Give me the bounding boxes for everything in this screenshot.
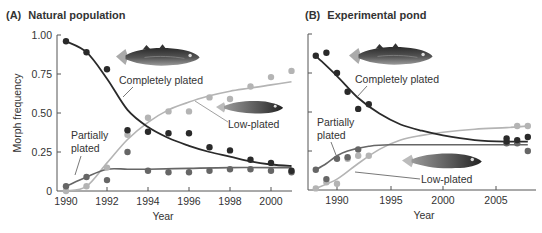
annotation-low-plated: Low-plated bbox=[421, 173, 473, 185]
annotation-completely-plated: Completely plated bbox=[355, 73, 439, 85]
figure: (A) Natural population 1.00 0.75 0.50 0.… bbox=[0, 0, 542, 233]
annotation-partially-plated-line1: Partially bbox=[71, 129, 109, 141]
data-point-partially bbox=[525, 148, 531, 154]
data-point-low bbox=[247, 83, 253, 89]
xtick-label: 2000 bbox=[259, 195, 283, 207]
ytick-label: 0.25 bbox=[32, 146, 53, 158]
data-point-completely bbox=[503, 135, 509, 141]
data-point-completely bbox=[323, 50, 329, 56]
data-point-completely bbox=[104, 66, 110, 72]
annotation-low-plated: Low-plated bbox=[228, 118, 280, 130]
xtick-label: 1994 bbox=[136, 195, 160, 207]
panel-a-yticks: 1.00 0.75 0.50 0.25 0 bbox=[32, 29, 53, 197]
leader-line bbox=[357, 86, 367, 97]
data-point-completely bbox=[124, 127, 130, 133]
ytick-label: 1.00 bbox=[32, 29, 53, 41]
xtick-label: 1992 bbox=[95, 195, 119, 207]
annotation-partially-plated-line2: plated bbox=[317, 129, 346, 141]
data-point-partially bbox=[104, 177, 110, 183]
ytick-label: 0.75 bbox=[32, 68, 53, 80]
leader-line bbox=[355, 172, 420, 179]
fit-curve-partially bbox=[66, 168, 292, 187]
panel-a-label: (A) bbox=[6, 9, 22, 21]
completely-plated-fish-icon bbox=[349, 43, 433, 64]
panel-b-xlabel: Year bbox=[413, 209, 435, 221]
data-point-low bbox=[165, 108, 171, 114]
data-point-completely bbox=[288, 168, 294, 174]
completely-plated-fish-icon bbox=[116, 44, 200, 65]
data-point-low bbox=[525, 123, 531, 129]
panel-a-title: Natural population bbox=[28, 9, 125, 21]
data-point-partially bbox=[313, 167, 319, 173]
data-point-completely bbox=[83, 49, 89, 55]
ytick-label: 0.50 bbox=[32, 107, 53, 119]
data-point-low bbox=[268, 74, 274, 80]
data-point-partially bbox=[124, 149, 130, 155]
data-point-partially bbox=[355, 146, 361, 152]
xtick-label: 2000 bbox=[431, 194, 455, 206]
xtick-label: 1998 bbox=[218, 195, 242, 207]
data-point-completely bbox=[186, 130, 192, 136]
annotation-partially-plated-line2: plated bbox=[71, 142, 100, 154]
data-point-partially bbox=[63, 183, 69, 189]
data-point-low bbox=[227, 96, 233, 102]
panel-b: (B) Experimental pond 1990 1995 2000 200… bbox=[305, 9, 536, 221]
data-point-completely bbox=[227, 147, 233, 153]
data-point-completely bbox=[247, 157, 253, 163]
annotation-partially-plated-line1: Partially bbox=[317, 116, 355, 128]
data-point-low bbox=[355, 153, 361, 159]
data-point-partially bbox=[165, 169, 171, 175]
svg-text:(B) Experimental pond: (B) Experimental pond bbox=[305, 9, 426, 21]
leader-line bbox=[123, 87, 133, 97]
data-point-partially bbox=[334, 156, 340, 162]
data-point-low bbox=[366, 153, 372, 159]
data-point-completely bbox=[145, 129, 151, 135]
xtick-label: 1990 bbox=[325, 194, 349, 206]
data-point-completely bbox=[344, 89, 350, 95]
data-point-completely bbox=[355, 106, 361, 112]
panel-b-xticks: 1990 1995 2000 2005 bbox=[325, 194, 508, 206]
data-point-completely bbox=[514, 137, 520, 143]
data-point-low bbox=[145, 115, 151, 121]
data-point-completely bbox=[366, 101, 372, 107]
data-point-partially bbox=[83, 174, 89, 180]
data-point-partially bbox=[344, 154, 350, 160]
low-plated-fish-icon bbox=[402, 153, 482, 168]
data-point-partially bbox=[323, 176, 329, 182]
data-point-partially bbox=[206, 168, 212, 174]
leader-line bbox=[331, 142, 336, 155]
data-point-partially bbox=[227, 166, 233, 172]
ytick-label: 0 bbox=[46, 185, 52, 197]
data-point-low bbox=[104, 164, 110, 170]
data-point-low bbox=[83, 183, 89, 189]
data-point-completely bbox=[525, 134, 531, 140]
data-point-low bbox=[288, 68, 294, 74]
panel-a-ylabel: Morph frequency bbox=[11, 73, 23, 153]
data-point-partially bbox=[145, 168, 151, 174]
data-point-partially bbox=[186, 169, 192, 175]
low-plated-fish-icon bbox=[216, 101, 283, 113]
xtick-label: 1995 bbox=[379, 194, 403, 206]
data-point-partially bbox=[247, 166, 253, 172]
leader-line bbox=[75, 156, 81, 175]
data-point-low bbox=[186, 108, 192, 114]
panel-a-xticks: 1990 1992 1994 1996 1998 2000 bbox=[54, 195, 283, 207]
xtick-label: 2005 bbox=[484, 194, 508, 206]
data-point-completely bbox=[63, 38, 69, 44]
annotation-completely-plated: Completely plated bbox=[119, 74, 203, 86]
xtick-label: 1990 bbox=[54, 195, 78, 207]
panel-b-label: (B) bbox=[305, 9, 321, 21]
data-point-completely bbox=[334, 70, 340, 76]
data-point-completely bbox=[165, 130, 171, 136]
data-point-completely bbox=[313, 53, 319, 59]
data-point-low bbox=[334, 181, 340, 187]
data-point-partially bbox=[268, 168, 274, 174]
panel-a-xlabel: Year bbox=[152, 210, 174, 222]
panel-b-title: Experimental pond bbox=[327, 9, 426, 21]
data-point-low bbox=[514, 123, 520, 129]
data-point-low bbox=[206, 94, 212, 100]
data-point-low bbox=[313, 185, 319, 191]
data-point-completely bbox=[268, 160, 274, 166]
svg-text:(A) Natural population: (A) Natural population bbox=[6, 9, 126, 21]
xtick-label: 1996 bbox=[177, 195, 201, 207]
